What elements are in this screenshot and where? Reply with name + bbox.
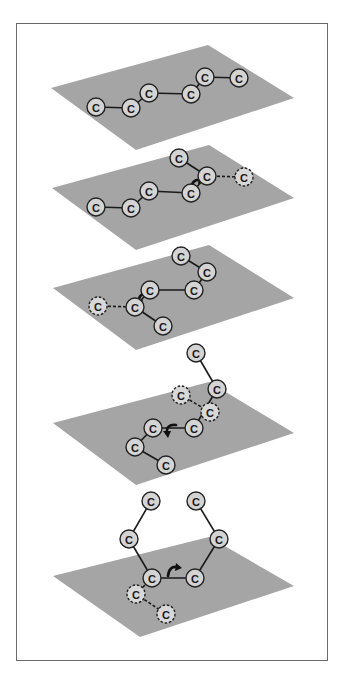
plane (53, 537, 294, 637)
atom-label: C (192, 348, 200, 360)
atom-carbon: C (141, 281, 159, 299)
atom-carbon-moving: C (172, 386, 190, 404)
atom-label: C (162, 609, 170, 621)
atom-label: C (206, 407, 214, 419)
atom-label: C (177, 390, 185, 402)
atom-carbon: C (198, 263, 216, 281)
atom-label: C (240, 172, 248, 184)
atom-carbon: C (143, 569, 161, 587)
atom-carbon: C (126, 298, 144, 316)
plane (51, 45, 294, 150)
atom-carbon: C (186, 569, 204, 587)
atom-label: C (213, 384, 221, 396)
atom-label: C (148, 573, 156, 585)
atom-label: C (149, 423, 157, 435)
atom-carbon: C (208, 380, 226, 398)
atom-label: C (159, 321, 167, 333)
panel-3: CCCCCCC (53, 245, 294, 350)
atom-label: C (192, 496, 200, 508)
atom-label: C (235, 73, 243, 85)
panel-4: CCCCCCCC (53, 344, 294, 485)
atom-label: C (146, 285, 154, 297)
atom-label: C (92, 102, 100, 114)
atom-carbon: C (182, 184, 200, 202)
panel-1: CCCCCC (51, 45, 294, 150)
panel-5: CCCCCCCC (53, 492, 294, 637)
atom-label: C (145, 88, 153, 100)
atom-label: C (162, 460, 170, 472)
atom-label: C (190, 285, 198, 297)
atom-label: C (191, 573, 199, 585)
atom-carbon: C (182, 85, 200, 103)
atom-label: C (177, 251, 185, 263)
atom-carbon: C (230, 69, 248, 87)
atom-carbon: C (87, 198, 105, 216)
atom-carbon: C (126, 438, 144, 456)
atom-carbon: C (170, 149, 188, 167)
atom-carbon: C (122, 199, 140, 217)
atom-label: C (125, 534, 133, 546)
atom-label: C (190, 423, 198, 435)
atom-carbon-moving: C (157, 605, 175, 623)
atom-label: C (131, 442, 139, 454)
atom-carbon: C (210, 530, 228, 548)
atom-label: C (92, 202, 100, 214)
atom-carbon: C (120, 530, 138, 548)
atom-carbon: C (198, 167, 216, 185)
atom-carbon: C (144, 419, 162, 437)
atom-label: C (175, 153, 183, 165)
atom-carbon: C (87, 98, 105, 116)
atom-carbon: C (142, 492, 160, 510)
atom-label: C (215, 534, 223, 546)
atom-label: C (187, 188, 195, 200)
atom-carbon: C (196, 68, 214, 86)
atom-carbon: C (187, 344, 205, 362)
atom-label: C (127, 203, 135, 215)
atom-carbon: C (122, 99, 140, 117)
atom-label: C (203, 267, 211, 279)
atom-carbon: C (185, 281, 203, 299)
atom-carbon-moving: C (235, 168, 253, 186)
atom-carbon-moving: C (89, 297, 107, 315)
atom-carbon-moving: C (127, 585, 145, 603)
atom-carbon: C (154, 317, 172, 335)
atom-label: C (94, 301, 102, 313)
atom-carbon: C (185, 419, 203, 437)
atom-label: C (127, 103, 135, 115)
atom-carbon-moving: C (201, 403, 219, 421)
atom-label: C (145, 186, 153, 198)
atom-label: C (132, 589, 140, 601)
atom-label: C (203, 171, 211, 183)
atom-label: C (201, 72, 209, 84)
atom-carbon: C (187, 492, 205, 510)
cyclization-diagram: CCCCCCCCCCCCCCCCCCCCCCCCCCCCCCCCCCCC (0, 0, 343, 681)
atom-carbon: C (172, 247, 190, 265)
atom-carbon: C (140, 182, 158, 200)
atom-label: C (187, 89, 195, 101)
atom-carbon: C (140, 84, 158, 102)
atom-carbon: C (157, 456, 175, 474)
atom-label: C (131, 302, 139, 314)
atom-label: C (147, 496, 155, 508)
panel-2: CCCCCCC (52, 145, 294, 250)
